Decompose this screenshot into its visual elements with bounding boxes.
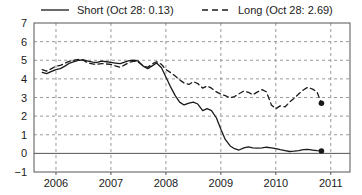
y-tick-label-2: 5	[21, 54, 27, 66]
x-tick-label-4: 2010	[264, 177, 288, 189]
x-tick-label-0: 2006	[44, 177, 68, 189]
y-tick-label-8: −1	[14, 166, 27, 178]
line-chart: 76543210−1 200620072008200920102011 Shor…	[0, 0, 362, 195]
y-tick-label-6: 1	[21, 129, 27, 141]
x-tick-label-2: 2008	[154, 177, 178, 189]
y-tick-label-4: 3	[21, 92, 27, 104]
x-tick-label-1: 2007	[99, 177, 123, 189]
y-tick-label-1: 6	[21, 36, 27, 48]
x-tick-label-5: 2011	[319, 177, 343, 189]
y-tick-label-5: 2	[21, 110, 27, 122]
y-axis-tick-labels: 76543210−1	[14, 17, 27, 178]
x-tick-label-3: 2009	[209, 177, 233, 189]
endpoint-marker-long	[319, 100, 325, 106]
chart-legend: Short (Oct 28: 0.13) Long (Oct 28: 2.69)	[41, 4, 333, 16]
y-tick-label-0: 7	[21, 17, 27, 29]
legend-label-long: Long (Oct 28: 2.69)	[238, 4, 333, 16]
legend-label-short: Short (Oct 28: 0.13)	[77, 4, 174, 16]
y-tick-label-7: 0	[21, 147, 27, 159]
endpoint-marker-short	[319, 148, 325, 154]
chart-container: 76543210−1 200620072008200920102011 Shor…	[0, 0, 362, 195]
y-tick-label-3: 4	[21, 73, 27, 85]
x-axis-tick-labels: 200620072008200920102011	[44, 177, 343, 189]
